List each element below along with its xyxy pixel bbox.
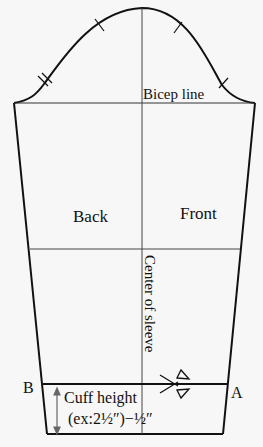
front-label: Front	[180, 204, 217, 223]
double-arrow-icon	[54, 388, 60, 434]
point-a-label: A	[231, 384, 243, 401]
center-of-sleeve-label: Center of sleeve	[142, 255, 158, 353]
cuff-height-label: Cuff height	[64, 389, 138, 407]
bicep-line-label: Bicep line	[143, 86, 205, 102]
sleeve-pattern-diagram: Bicep line Back Front Center of sleeve B…	[0, 0, 263, 447]
sleeve-cap-curve	[14, 8, 255, 103]
back-label: Back	[73, 207, 108, 226]
cuff-height-example-label: (ex:2½″)−½″	[68, 410, 153, 428]
point-b-label: B	[23, 379, 34, 396]
